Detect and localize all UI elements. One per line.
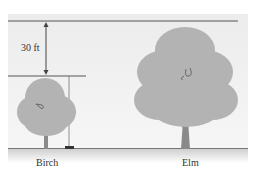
elm-label: Elm xyxy=(182,157,199,168)
birch-tree xyxy=(17,78,76,149)
diagram-figure xyxy=(0,0,257,179)
dimension-arrow xyxy=(44,22,49,75)
birch-label: Birch xyxy=(36,157,58,168)
ground-object xyxy=(65,146,74,149)
elm-tree xyxy=(134,27,238,149)
dimension-label: 30 ft xyxy=(21,42,40,53)
